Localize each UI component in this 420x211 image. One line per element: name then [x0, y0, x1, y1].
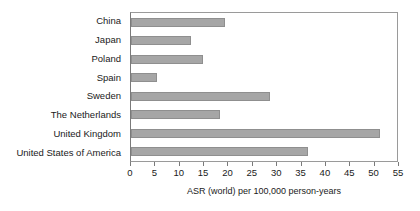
x-axis-tick-mark	[398, 162, 399, 166]
bar-row	[131, 13, 397, 32]
x-axis-tick-label: 55	[393, 167, 404, 178]
bar	[131, 36, 191, 45]
x-axis-tick-label: 0	[127, 167, 132, 178]
y-axis-tick-label: Poland	[0, 54, 126, 64]
x-axis-tick-mark	[203, 162, 204, 166]
bar-row	[131, 87, 397, 106]
x-axis-tick-mark	[130, 162, 131, 166]
x-axis-tick-mark	[179, 162, 180, 166]
bar	[131, 18, 225, 27]
x-axis: 0510152025303540455055	[130, 162, 398, 184]
y-axis-tick-label: Spain	[0, 73, 126, 83]
x-axis-tick-mark	[252, 162, 253, 166]
y-axis-tick-label: The Netherlands	[0, 110, 126, 120]
x-axis-title: ASR (world) per 100,000 person-years	[130, 186, 398, 197]
y-axis-tick-label: United States of America	[0, 148, 126, 158]
bar-row	[131, 143, 397, 162]
x-axis-tick-label: 10	[173, 167, 184, 178]
bar-series	[131, 13, 397, 161]
plot-area	[130, 12, 398, 162]
y-axis-tick-label: United Kingdom	[0, 129, 126, 139]
y-axis-category-labels: China Japan Poland Spain Sweden The Neth…	[0, 12, 126, 162]
y-axis-tick-label: China	[0, 16, 126, 26]
bar-row	[131, 124, 397, 143]
x-axis-tick-mark	[276, 162, 277, 166]
bar	[131, 129, 380, 138]
x-axis-tick-mark	[301, 162, 302, 166]
bar-chart: China Japan Poland Spain Sweden The Neth…	[0, 0, 420, 211]
bar	[131, 92, 270, 101]
bar-row	[131, 50, 397, 69]
y-axis-tick-label: Japan	[0, 35, 126, 45]
bar	[131, 110, 220, 119]
x-axis-tick-label: 45	[344, 167, 355, 178]
bar	[131, 147, 308, 156]
bar-row	[131, 106, 397, 125]
x-axis-tick-label: 25	[247, 167, 258, 178]
bar	[131, 55, 203, 64]
x-axis-tick-label: 30	[271, 167, 282, 178]
bar-row	[131, 32, 397, 51]
bar	[131, 73, 157, 82]
x-axis-tick-label: 50	[368, 167, 379, 178]
x-axis-tick-label: 5	[152, 167, 157, 178]
x-axis-tick-mark	[227, 162, 228, 166]
x-axis-tick-label: 15	[198, 167, 209, 178]
y-axis-tick-label: Sweden	[0, 91, 126, 101]
x-axis-tick-mark	[349, 162, 350, 166]
x-axis-tick-label: 35	[295, 167, 306, 178]
x-axis-tick-label: 20	[222, 167, 233, 178]
x-axis-tick-mark	[374, 162, 375, 166]
x-axis-tick-mark	[325, 162, 326, 166]
x-axis-tick-mark	[154, 162, 155, 166]
x-axis-tick-label: 40	[320, 167, 331, 178]
bar-row	[131, 69, 397, 88]
